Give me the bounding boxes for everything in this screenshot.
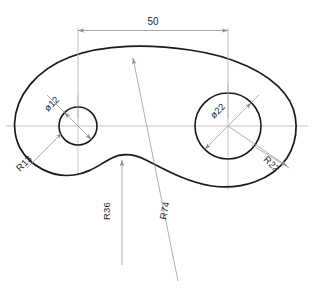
dimension-r22-group [228,126,289,168]
dimension-r74-group [133,58,178,281]
part-outline [15,46,297,187]
dimension-label-r22: R22 [262,154,283,175]
dimension-50-group [78,28,228,118]
cad-drawing-svg: 50 ø12 ø22 R13 R22 R36 R74 [0,0,314,290]
radius-leader-r22 [228,126,287,166]
part-outline-group [15,46,297,187]
radius-leader-r74 [133,58,178,281]
dimension-label-r36: R36 [101,202,112,220]
dimension-label-r74: R74 [157,200,172,220]
dimension-r13-group [27,133,62,168]
dimension-label-r13: R13 [14,153,35,174]
dimension-label-50: 50 [147,16,159,27]
technical-drawing-canvas: 50 ø12 ø22 R13 R22 R36 R74 [0,0,314,290]
diameter-leader-extension-large [251,95,259,103]
dimension-label-d12: ø12 [42,94,62,114]
radius-leader-r13 [27,133,62,168]
dimension-label-d22: ø22 [208,101,228,121]
